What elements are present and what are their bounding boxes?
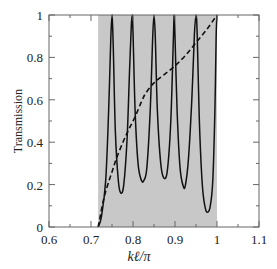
x-tick-label: 0.6 <box>41 232 58 247</box>
x-tick-label: 0.8 <box>125 232 141 247</box>
y-tick-label: 0.4 <box>27 135 44 150</box>
transmission-chart: 0.60.70.80.911.1 00.20.40.60.81 kℓ/π Tra… <box>0 0 277 269</box>
x-axis-title: kℓ/π <box>128 249 152 264</box>
x-tick-label: 1 <box>214 232 221 247</box>
y-tick-label: 0.2 <box>27 178 43 193</box>
x-tick-labels: 0.60.70.80.911.1 <box>41 232 267 247</box>
x-tick-label: 1.1 <box>251 232 267 247</box>
y-tick-label: 0 <box>37 220 44 235</box>
y-tick-label: 0.6 <box>27 93 44 108</box>
y-axis-title: Transmission <box>11 89 25 153</box>
x-tick-label: 0.9 <box>167 232 183 247</box>
x-tick-label: 0.7 <box>83 232 100 247</box>
y-tick-labels: 00.20.40.60.81 <box>27 8 44 235</box>
y-tick-label: 1 <box>37 8 44 23</box>
y-tick-label: 0.8 <box>27 50 43 65</box>
